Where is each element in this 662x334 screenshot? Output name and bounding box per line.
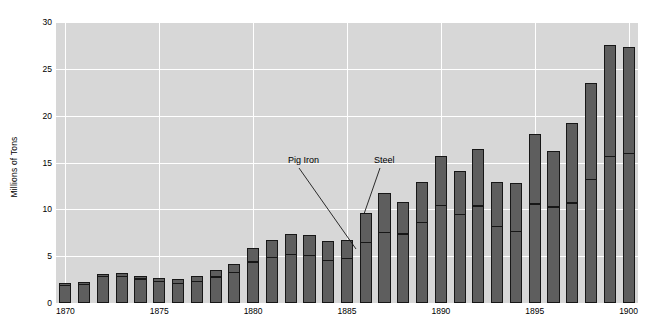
annotation-leader-lines	[0, 0, 662, 334]
chart-root: Millions of Tons 051015202530 1870187518…	[0, 0, 662, 334]
annotation-label-pig-iron: Pig Iron	[288, 156, 319, 165]
leader-line-pig-iron	[299, 168, 356, 249]
annotation-label-steel: Steel	[374, 156, 395, 165]
leader-line-steel	[364, 168, 380, 214]
